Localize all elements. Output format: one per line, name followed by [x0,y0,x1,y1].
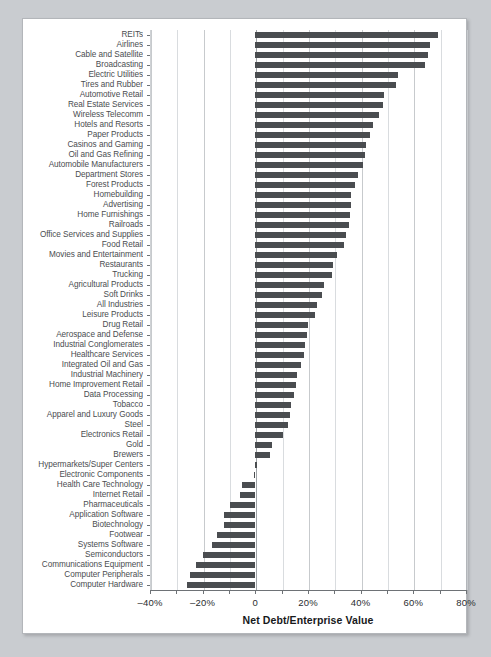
bar [255,442,272,448]
bar [255,92,384,98]
y-tick [147,65,150,66]
y-tick [147,395,150,396]
chart-row: Leisure Products [23,310,466,320]
bar [255,42,430,48]
y-tick [147,415,150,416]
chart-row: Paper Products [23,130,466,140]
category-label: Application Software [23,510,143,520]
category-label: Internet Retail [23,490,143,500]
x-tick [413,590,414,594]
y-tick [147,445,150,446]
category-label: Automotive Retail [23,90,143,100]
y-tick [147,525,150,526]
y-tick [147,75,150,76]
gridline [467,30,468,590]
bar [255,262,333,268]
bar [187,582,255,588]
chart-row: Airlines [23,40,466,50]
category-label: Brewers [23,450,143,460]
chart-row: Trucking [23,270,466,280]
chart-row: Healthcare Services [23,350,466,360]
chart-row: Industrial Conglomerates [23,340,466,350]
x-tick-label: 40% [336,597,386,608]
y-tick [147,555,150,556]
category-label: Data Processing [23,390,143,400]
category-label: Home Furnishings [23,210,143,220]
category-label: Office Services and Supplies [23,230,143,240]
category-label: Electric Utilities [23,70,143,80]
chart-row: Tobacco [23,400,466,410]
category-label: Hypermarkets/Super Centers [23,460,143,470]
chart-row: Semiconductors [23,550,466,560]
chart-row: Home Furnishings [23,210,466,220]
category-label: Casinos and Gaming [23,140,143,150]
category-label: Homebuilding [23,190,143,200]
category-label: Industrial Conglomerates [23,340,143,350]
bar [255,392,293,398]
bar [217,532,255,538]
bar [255,142,366,148]
bar [255,422,288,428]
chart-row: Restaurants [23,260,466,270]
chart-row: Forest Products [23,180,466,190]
category-label: Leisure Products [23,310,143,320]
chart-row: Movies and Entertainment [23,250,466,260]
chart-row: Footwear [23,530,466,540]
y-tick [147,115,150,116]
chart-row: Advertising [23,200,466,210]
chart-row: Computer Peripherals [23,570,466,580]
category-label: Systems Software [23,540,143,550]
category-label: Pharmaceuticals [23,500,143,510]
bar [255,162,363,168]
y-tick [147,305,150,306]
bar [255,182,355,188]
y-tick [147,55,150,56]
bar [255,202,351,208]
chart-row: Biotechnology [23,520,466,530]
chart-row: Hypermarkets/Super Centers [23,460,466,470]
chart-row: Electronics Retail [23,430,466,440]
y-tick [147,245,150,246]
chart-row: Railroads [23,220,466,230]
bar [255,362,301,368]
chart-row: Brewers [23,450,466,460]
bar [255,432,283,438]
chart-row: Systems Software [23,540,466,550]
category-label: REITs [23,30,143,40]
chart-row: Casinos and Gaming [23,140,466,150]
category-label: Forest Products [23,180,143,190]
category-label: Broadcasting [23,60,143,70]
chart-row: Food Retail [23,240,466,250]
category-label: All Industries [23,300,143,310]
y-tick [147,175,150,176]
category-label: Soft Drinks [23,290,143,300]
chart-row: Data Processing [23,390,466,400]
category-label: Hotels and Resorts [23,120,143,130]
chart-row: Electric Utilities [23,70,466,80]
chart-row: Oil and Gas Refining [23,150,466,160]
chart-row: Health Care Technology [23,480,466,490]
bar [255,342,305,348]
category-label: Advertising [23,200,143,210]
y-tick [147,515,150,516]
bar [255,282,323,288]
category-label: Food Retail [23,240,143,250]
bar [190,572,256,578]
bar [196,562,255,568]
x-tick-label: –40% [125,597,175,608]
category-label: Restaurants [23,260,143,270]
chart-row: Real Estate Services [23,100,466,110]
bar [255,352,304,358]
chart-row: Industrial Machinery [23,370,466,380]
x-tick [308,590,309,594]
y-tick [147,235,150,236]
x-tick [466,590,467,594]
x-tick [176,590,177,594]
category-label: Healthcare Services [23,350,143,360]
y-tick [147,45,150,46]
bar [255,132,370,138]
chart-row: Steel [23,420,466,430]
bar [255,112,379,118]
bar [255,252,337,258]
chart-row: Automotive Retail [23,90,466,100]
